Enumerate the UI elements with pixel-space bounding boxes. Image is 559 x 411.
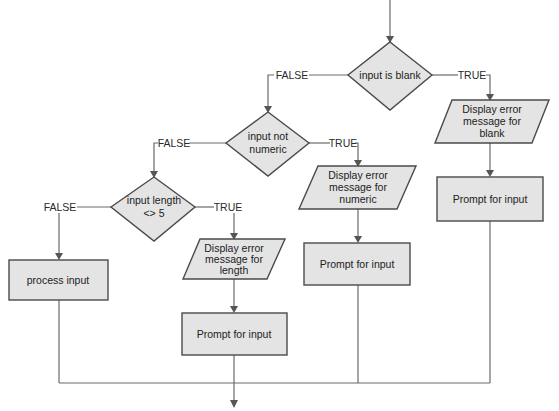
decision-label: input not [248,130,288,142]
process-label: process input [27,274,90,286]
output-label: Display error [328,169,388,181]
output-label: Display error [462,103,522,115]
process-prompt-numeric: Prompt for input [304,243,410,285]
arrowhead [354,236,362,243]
branch-label-false: FALSE [44,201,77,213]
arrowhead [486,170,494,177]
output-label: blank [479,127,505,139]
output-label: message for [463,115,521,127]
blank-true-connector-2 [486,75,490,96]
process-label: Prompt for input [320,258,395,270]
branch-label-false: FALSE [276,69,309,81]
output-error-blank: Display error message for blank [435,100,549,143]
process-label: Prompt for input [197,328,272,340]
decision-label: input is blank [359,69,421,81]
output-label: message for [329,181,387,193]
arrowhead [230,400,238,408]
process-process-input: process input [9,260,108,300]
decision-input-not-numeric: input not numeric [226,112,309,176]
decision-input-length: input length <> 5 [111,177,195,241]
process-prompt-blank: Prompt for input [437,177,543,221]
decision-input-is-blank: input is blank [348,42,432,110]
decision-label: <> 5 [143,207,164,219]
arrowhead [230,306,238,313]
blank-false-connector-2 [268,75,274,108]
branch-label-true: TRUE [458,69,487,81]
arrowhead [55,253,63,260]
process-prompt-length: Prompt for input [182,313,287,355]
output-label: numeric [339,193,376,205]
branch-label-false: FALSE [158,137,191,149]
decision-label: numeric [249,143,286,155]
flowchart: input is blank input not numeric input l… [0,0,559,411]
decision-label: input length [127,194,181,206]
branch-label-true: TRUE [214,201,243,213]
output-error-numeric: Display error message for numeric [299,166,416,209]
output-error-length: Display error message for length [183,239,285,279]
output-label: length [220,264,249,276]
process-label: Prompt for input [453,193,528,205]
branch-label-true: TRUE [329,137,358,149]
